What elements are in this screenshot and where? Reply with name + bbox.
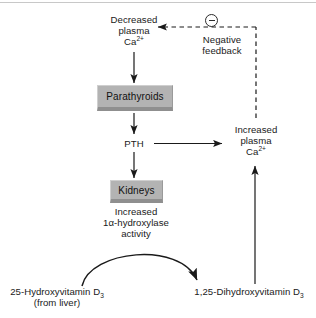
negative-sign-icon xyxy=(205,14,218,27)
node-125-dihydroxyvitamin-d3: 1,25-Dihydroxyvitamin D3 xyxy=(183,286,315,297)
node-hydroxylase-activity: Increased 1α-hydroxylase activity xyxy=(76,206,196,239)
vitd-25oh-line-1: 25-Hydroxyvitamin D3 xyxy=(2,286,112,297)
decreased-ca-line-3: Ca2+ xyxy=(84,36,184,47)
decreased-ca-line-1: Decreased xyxy=(84,14,184,25)
increased-ca-line-3: Ca2+ xyxy=(206,146,306,157)
hydroxylase-line-1: Increased xyxy=(76,206,196,217)
edge-25ohd-to-125d-conversion xyxy=(82,255,197,286)
decreased-ca-symbol: Ca xyxy=(124,36,136,47)
hydroxylase-line-3: activity xyxy=(76,228,196,239)
decreased-ca-line-2: plasma xyxy=(84,25,184,36)
negative-feedback-line-1: Negative xyxy=(192,34,252,45)
vitd-125-name: 1,25-Dihydroxyvitamin D xyxy=(194,286,300,297)
increased-ca-symbol: Ca xyxy=(246,146,258,157)
increased-ca-line-1: Increased xyxy=(206,124,306,135)
vitd-25oh-line-2: (from liver) xyxy=(2,297,112,308)
parathyroids-label: Parathyroids xyxy=(106,91,163,102)
increased-ca-line-2: plasma xyxy=(206,135,306,146)
negative-feedback-line-2: feedback xyxy=(192,45,252,56)
vitd-125-subscript: 3 xyxy=(300,292,304,299)
node-pth: PTH xyxy=(104,138,164,149)
vitd-25oh-subscript: 3 xyxy=(100,292,104,299)
node-parathyroids-box: Parathyroids xyxy=(97,85,173,111)
label-negative-feedback: Negative feedback xyxy=(192,34,252,56)
pth-label: PTH xyxy=(104,138,164,149)
decreased-ca-charge: 2+ xyxy=(136,35,144,42)
node-25-hydroxyvitamin-d3: 25-Hydroxyvitamin D3 (from liver) xyxy=(2,286,112,308)
vitd-125-line-1: 1,25-Dihydroxyvitamin D3 xyxy=(183,286,315,297)
diagram-canvas: Decreased plasma Ca2+ Negative feedback … xyxy=(0,0,316,318)
node-decreased-plasma-calcium: Decreased plasma Ca2+ xyxy=(84,14,184,47)
hydroxylase-line-2: 1α-hydroxylase xyxy=(76,217,196,228)
diagram-connectors-layer xyxy=(0,0,316,318)
kidneys-label: Kidneys xyxy=(118,185,154,196)
increased-ca-charge: 2+ xyxy=(258,145,266,152)
vitd-25oh-name: 25-Hydroxyvitamin D xyxy=(10,286,100,297)
node-increased-plasma-calcium: Increased plasma Ca2+ xyxy=(206,124,306,157)
node-kidneys-box: Kidneys xyxy=(110,180,163,203)
